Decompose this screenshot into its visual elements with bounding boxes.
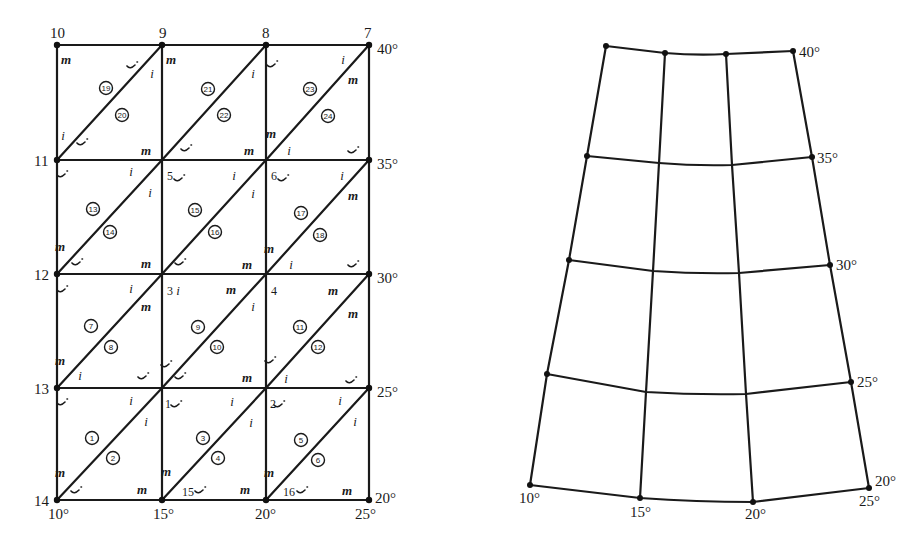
corner-j-mark-icon	[278, 175, 289, 181]
element-number-label: 21	[204, 85, 213, 94]
mesh-figure: 1098711121314563412151640°35°30°25°20°10…	[0, 0, 918, 542]
node-point	[366, 385, 372, 391]
inner-node-label: 3	[167, 284, 173, 298]
corner-i-label: i	[341, 52, 345, 67]
node-point	[54, 157, 60, 163]
corner-j-mark-icon	[348, 261, 359, 267]
corner-m-label: m	[166, 52, 176, 67]
projected-node	[723, 51, 729, 57]
corner-m-label: m	[242, 257, 252, 272]
projected-node	[637, 495, 643, 501]
corner-m-label: m	[264, 241, 274, 256]
corner-m-label: m	[240, 482, 250, 497]
element-number-label: 7	[89, 322, 94, 331]
element-number: 10	[211, 341, 224, 354]
projected-longitude-label: 10°	[519, 490, 540, 506]
corner-i-label: i	[61, 128, 65, 143]
element-number: 9	[192, 321, 205, 334]
corner-i-label: i	[249, 415, 253, 430]
projected-node	[527, 482, 533, 488]
corner-i-label: i	[340, 168, 344, 183]
corner-i-label: i	[353, 414, 357, 429]
element-number-label: 19	[102, 84, 111, 93]
parallel-curve	[530, 485, 869, 502]
node-label: 7	[364, 25, 372, 41]
element-number: 13	[87, 203, 100, 216]
corner-j-mark-icon	[175, 259, 186, 265]
node-label: 11	[34, 153, 48, 169]
corner-m-label: m	[348, 306, 358, 321]
meridian-line	[793, 51, 869, 488]
element-number-label: 3	[201, 434, 206, 443]
projected-latitude-label: 40°	[799, 44, 820, 60]
corner-i-label: i	[129, 164, 133, 179]
element-number: 20	[116, 109, 129, 122]
node-label: 13	[34, 381, 49, 397]
corner-j-mark-icon	[267, 61, 278, 67]
corner-m-label: m	[242, 370, 252, 385]
element-number: 4	[212, 452, 225, 465]
element-number: 1	[86, 432, 99, 445]
element-number: 3	[197, 432, 210, 445]
corner-m-label: m	[55, 239, 65, 254]
inner-node-label: 2	[270, 397, 276, 411]
corner-m-label: m	[141, 256, 151, 271]
element-number-label: 18	[316, 231, 325, 240]
node-point	[366, 497, 372, 503]
projected-node	[584, 153, 590, 159]
node-point	[159, 497, 165, 503]
corner-m-label: m	[348, 188, 358, 203]
element-number-label: 24	[324, 112, 333, 121]
inner-node-label: 6	[271, 169, 277, 183]
conic-projection-grid: 40°35°30°25°20°10°15°20°25°	[519, 43, 896, 522]
projected-node	[750, 499, 756, 505]
corner-j-mark-icon	[57, 171, 68, 177]
element-number: 7	[85, 320, 98, 333]
corner-j-mark-icon	[348, 147, 359, 153]
inner-node-label: 5	[167, 169, 173, 183]
inner-node-label: 4	[271, 284, 277, 298]
element-number-label: 9	[196, 323, 201, 332]
projected-longitude-label: 20°	[745, 506, 766, 522]
element-number-label: 14	[106, 228, 115, 237]
inner-node-label: 1	[165, 397, 171, 411]
corner-j-mark-icon	[346, 377, 357, 383]
corner-j-mark-icon	[175, 373, 186, 379]
corner-j-mark-icon	[195, 487, 206, 493]
projected-node	[790, 48, 796, 54]
element-number: 23	[304, 83, 317, 96]
node-point	[54, 42, 60, 48]
element-number-label: 10	[213, 343, 222, 352]
corner-j-mark-icon	[57, 286, 68, 292]
projected-latitude-label: 30°	[836, 257, 857, 273]
inner-node-label: 16	[283, 485, 295, 499]
corner-j-mark-icon	[297, 487, 308, 493]
triangular-element-mesh: 1098711121314563412151640°35°30°25°20°10…	[34, 25, 398, 522]
longitude-label: 10°	[48, 506, 69, 522]
corner-m-label: m	[141, 143, 151, 158]
longitude-label: 25°	[355, 506, 376, 522]
corner-m-label: m	[55, 465, 65, 480]
element-number-label: 20	[118, 111, 127, 120]
element-number: 16	[209, 226, 222, 239]
corner-j-mark-icon	[181, 145, 192, 151]
corner-j-mark-icon	[71, 487, 82, 493]
projected-node	[603, 43, 609, 49]
corner-i-label: i	[251, 299, 255, 314]
element-diagonal	[266, 274, 369, 388]
node-point	[54, 497, 60, 503]
corner-m-label: m	[264, 465, 274, 480]
corner-i-label: i	[287, 143, 291, 158]
element-number: 6	[312, 454, 325, 467]
element-number: 24	[322, 110, 335, 123]
node-point	[263, 42, 269, 48]
latitude-label: 30°	[377, 270, 398, 286]
corner-i-label: i	[338, 393, 342, 408]
element-number: 22	[218, 109, 231, 122]
projected-node	[662, 50, 668, 56]
corner-j-mark-icon	[57, 399, 68, 405]
projected-latitude-label: 35°	[817, 150, 838, 166]
element-number: 18	[314, 229, 327, 242]
projected-longitude-label: 25°	[859, 493, 880, 509]
corner-i-label: i	[251, 66, 255, 81]
